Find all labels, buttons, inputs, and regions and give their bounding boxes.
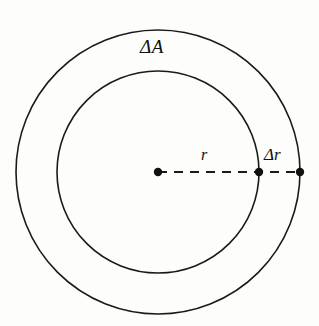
- delta-radius-label: Δr: [264, 146, 281, 163]
- center-point: [154, 168, 162, 176]
- outer-circle-point: [296, 168, 304, 176]
- inner-circle-point: [255, 168, 263, 176]
- delta-area-label: ΔA: [140, 37, 164, 56]
- radius-label: r: [201, 147, 207, 163]
- annulus-figure: ΔA r Δr: [0, 0, 319, 326]
